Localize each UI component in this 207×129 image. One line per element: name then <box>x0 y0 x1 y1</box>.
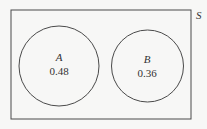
venn-diagram: S A 0.48 B 0.36 <box>0 0 207 129</box>
set-a-label: A <box>55 51 63 63</box>
set-a-probability: 0.48 <box>49 65 69 77</box>
set-b-probability: 0.36 <box>137 67 157 79</box>
set-b-circle <box>112 30 184 102</box>
sample-space-label: S <box>196 9 202 21</box>
set-b-label: B <box>144 53 151 65</box>
sample-space-rectangle <box>11 10 191 119</box>
